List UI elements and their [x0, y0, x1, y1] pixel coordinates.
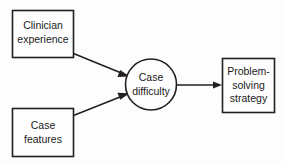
diagram-svg: Clinician experience Case features Case …: [0, 0, 285, 164]
node-label-line2: experience: [17, 33, 69, 45]
node-label-line3: strategy: [230, 92, 268, 104]
node-clinician-experience[interactable]: Clinician experience: [13, 11, 74, 58]
node-case-features[interactable]: Case features: [13, 109, 74, 157]
node-label-line2: features: [24, 133, 62, 145]
node-label-line1: Case: [139, 71, 164, 83]
node-case-difficulty[interactable]: Case difficulty: [126, 59, 177, 110]
node-label-line2: difficulty: [132, 85, 170, 97]
edge-line: [74, 96, 123, 116]
node-problem-solving-strategy[interactable]: Problem- solving strategy: [223, 59, 275, 113]
edge-line: [74, 54, 123, 74]
arrowhead-icon: [213, 81, 222, 88]
node-label-line1: Clinician: [23, 19, 63, 31]
node-label-line1: Case: [31, 119, 56, 131]
edge-clinician-experience-to-case-difficulty: [74, 54, 130, 77]
node-label-line2: solving: [232, 79, 265, 91]
edge-case-difficulty-to-problem-solving-strategy: [177, 81, 223, 88]
diagram-canvas: Clinician experience Case features Case …: [0, 0, 285, 164]
node-label-line1: Problem-: [227, 65, 270, 77]
edge-case-features-to-case-difficulty: [74, 93, 130, 116]
